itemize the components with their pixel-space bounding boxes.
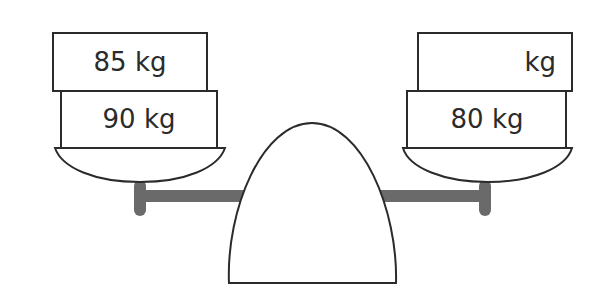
left-weight-bottom-label: 90 kg [103, 104, 176, 134]
left-weight-top: 85 kg [53, 33, 207, 91]
right-pan [403, 148, 572, 182]
right-weight-top: kg [418, 33, 572, 91]
fulcrum [229, 123, 396, 283]
left-weight-bottom: 90 kg [61, 91, 217, 148]
left-pan [55, 148, 225, 182]
left-weight-top-label: 85 kg [94, 47, 167, 77]
balance-scale-diagram: 85 kg 90 kg kg 80 kg [0, 0, 607, 302]
left-post [134, 180, 146, 216]
right-weight-bottom-label: 80 kg [451, 104, 524, 134]
right-weight-top-label: kg [524, 47, 556, 77]
right-weight-bottom: 80 kg [407, 91, 566, 148]
right-post [479, 180, 491, 216]
